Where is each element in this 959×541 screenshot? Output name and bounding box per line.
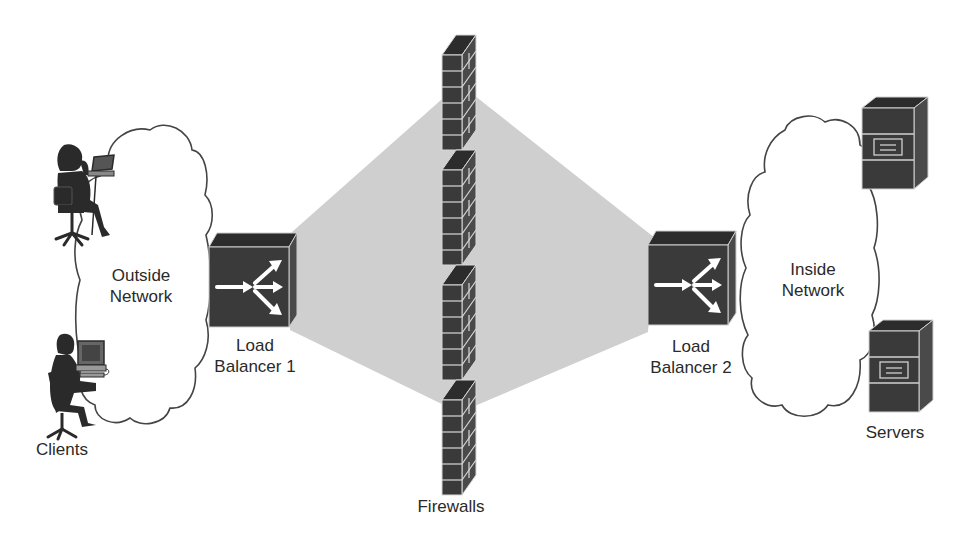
load-balancer-2-label-line1: Load <box>636 336 746 357</box>
load-balancer-2-icon <box>648 231 736 325</box>
load-balancer-2-label: Load Balancer 2 <box>636 336 746 378</box>
load-balancer-1-label-line2: Balancer 1 <box>200 356 310 377</box>
clients-label: Clients <box>22 439 102 460</box>
firewall-2 <box>442 150 476 265</box>
firewall-3 <box>442 265 476 380</box>
outside-network-label: Outside Network <box>96 265 186 307</box>
outside-network-label-line2: Network <box>96 286 186 307</box>
load-balancer-2-label-line2: Balancer 2 <box>636 357 746 378</box>
inside-network-label-line2: Network <box>768 280 858 301</box>
inside-network-label: Inside Network <box>768 259 858 301</box>
load-balancer-1-label-line1: Load <box>200 335 310 356</box>
servers-label: Servers <box>852 422 938 443</box>
firewall-1 <box>442 35 476 150</box>
firewalls-label: Firewalls <box>406 496 496 517</box>
firewall-4 <box>442 380 476 495</box>
load-balancer-1-icon <box>209 233 297 327</box>
server-2-icon <box>869 320 933 412</box>
load-balancer-1-label: Load Balancer 1 <box>200 335 310 377</box>
outside-network-label-line1: Outside <box>96 265 186 286</box>
server-1-icon <box>862 97 928 189</box>
inside-network-label-line1: Inside <box>768 259 858 280</box>
